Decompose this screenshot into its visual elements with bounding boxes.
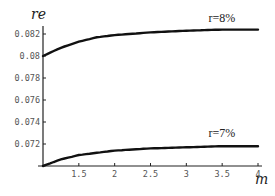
y-tick-label: 0.082 (14, 29, 40, 39)
x-axis-title: m (255, 171, 268, 187)
x-tick-label: 2.5 (143, 169, 158, 179)
series-label: r=7% (209, 126, 236, 140)
x-tick-label: 3.5 (214, 169, 229, 179)
series-label: r=8% (209, 11, 236, 25)
y-tick-label: 0.08 (20, 51, 40, 61)
x-axis: 1.522.533.54 (38, 163, 262, 179)
y-tick-label: 0.072 (14, 139, 40, 149)
y-axis: 0.0720.0740.0760.0780.080.082 (14, 26, 46, 166)
y-axis-title: re (31, 6, 46, 22)
x-tick-label: 3 (184, 169, 189, 179)
series-line (43, 30, 258, 56)
x-tick-label: 1.5 (71, 169, 86, 179)
line-chart: 0.0720.0740.0760.0780.080.082 1.522.533.… (0, 0, 275, 196)
y-tick-label: 0.078 (14, 73, 40, 83)
y-tick-label: 0.074 (14, 117, 40, 127)
x-tick-label: 2 (112, 169, 117, 179)
y-tick-label: 0.076 (14, 95, 40, 105)
series-layer: r=8%r=7% (43, 11, 258, 166)
